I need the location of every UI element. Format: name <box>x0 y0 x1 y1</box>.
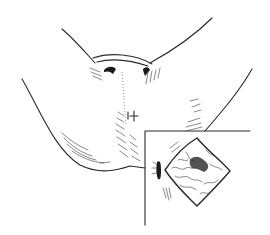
inset-frame <box>145 131 250 225</box>
inset-lesion-center <box>190 157 209 172</box>
left-buttock-hatching <box>62 133 110 163</box>
left-buttock-outline <box>22 79 145 171</box>
inset-lesion-outline <box>165 138 230 206</box>
main-anatomical-view <box>0 0 270 235</box>
left-thigh-outline <box>62 29 95 63</box>
illustration <box>0 0 270 235</box>
right-thigh-outline <box>150 18 212 63</box>
left-fold-shadow <box>104 67 116 74</box>
right-fold-shadow <box>143 67 150 76</box>
perineal-fold-inner <box>97 60 148 66</box>
perineal-fold <box>93 55 152 64</box>
right-buttock-hatching <box>186 99 202 131</box>
midline-raphe <box>122 72 126 125</box>
right-buttock-outline <box>205 69 252 131</box>
inset-anal-opening <box>156 161 161 179</box>
lesion-marker-plus <box>128 111 138 121</box>
